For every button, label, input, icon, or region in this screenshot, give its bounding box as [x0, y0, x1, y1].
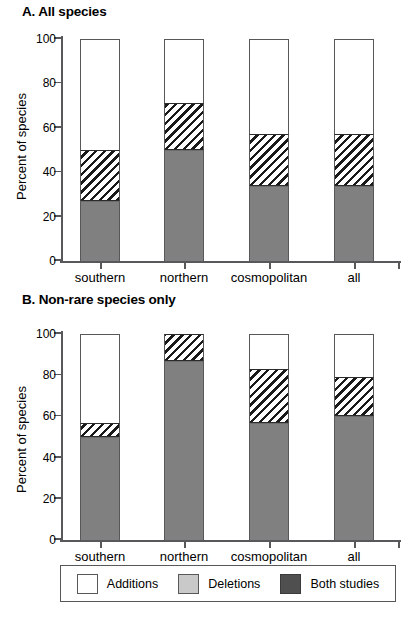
bar-northern — [164, 39, 204, 261]
x-axis-end-tick — [398, 541, 400, 548]
bar-southern — [80, 334, 120, 540]
panel-b-plot-area: 020406080100southernnortherncosmopolitan… — [61, 334, 400, 540]
bar-segment-deletions — [249, 369, 289, 423]
x-axis-tick-label-southern: southern — [75, 549, 126, 564]
panel-a-title: A. All species — [22, 4, 107, 19]
legend-item-both-studies: Both studies — [280, 574, 379, 594]
y-axis-tick-label: 100 — [36, 32, 56, 46]
bar-segment-both-studies — [334, 416, 374, 540]
x-axis-tick — [100, 262, 102, 269]
panel-b-y-axis — [61, 331, 63, 540]
bar-segment-additions — [249, 39, 289, 134]
bar-segment-additions — [334, 334, 374, 377]
legend-swatch-icon — [77, 574, 98, 594]
y-axis-tick-label: 20 — [43, 492, 56, 506]
bar-all — [334, 39, 374, 261]
x-axis-tick — [354, 541, 356, 548]
bar-segment-additions — [80, 39, 120, 150]
bar-segment-both-studies — [164, 150, 204, 261]
bar-segment-both-studies — [80, 437, 120, 540]
bar-all — [334, 334, 374, 540]
bar-segment-deletions — [249, 134, 289, 185]
bar-northern — [164, 334, 204, 540]
legend: AdditionsDeletionsBoth studies — [60, 565, 396, 602]
x-axis-tick-label-cosmopolitan: cosmopolitan — [231, 549, 308, 564]
bar-segment-deletions — [334, 134, 374, 185]
panel-a-y-axis — [61, 36, 63, 261]
panel-b-y-axis-label: Percent of species — [14, 386, 29, 493]
panel-a: A. All species Percent of species 020406… — [0, 0, 408, 288]
legend-label: Both studies — [310, 577, 379, 591]
y-axis-tick-label: 100 — [36, 327, 56, 341]
x-axis-tick — [269, 541, 271, 548]
bar-segment-additions — [80, 334, 120, 423]
x-axis-tick-label-southern: southern — [75, 270, 126, 285]
legend-swatch-icon — [280, 574, 301, 594]
y-axis-tick-label: 0 — [49, 254, 56, 268]
legend-label: Additions — [107, 577, 158, 591]
panel-a-y-axis-label: Percent of species — [14, 93, 29, 200]
bar-segment-deletions — [80, 423, 120, 437]
x-axis-tick — [184, 262, 186, 269]
bar-segment-deletions — [164, 103, 204, 150]
legend-item-additions: Additions — [77, 574, 158, 594]
x-axis-tick-label-all: all — [347, 549, 360, 564]
x-axis-tick — [269, 262, 271, 269]
bar-cosmopolitan — [249, 334, 289, 540]
x-axis-tick-label-all: all — [347, 270, 360, 285]
x-axis-tick-label-northern: northern — [160, 270, 208, 285]
bar-segment-both-studies — [249, 423, 289, 540]
bar-segment-deletions — [80, 150, 120, 201]
panel-b-x-axis — [60, 540, 401, 542]
legend-item-deletions: Deletions — [178, 574, 260, 594]
panel-a-x-axis — [60, 261, 401, 263]
bar-cosmopolitan — [249, 39, 289, 261]
bar-segment-both-studies — [334, 186, 374, 261]
x-axis-tick — [354, 262, 356, 269]
bar-segment-additions — [164, 39, 204, 103]
y-axis-tick-label: 80 — [43, 76, 56, 90]
y-axis-tick-label: 20 — [43, 210, 56, 224]
bar-segment-additions — [249, 334, 289, 369]
panel-b: B. Non-rare species only Percent of spec… — [0, 288, 408, 560]
x-axis-end-tick — [398, 262, 400, 269]
bar-southern — [80, 39, 120, 261]
y-axis-tick-label: 60 — [43, 121, 56, 135]
panel-b-title: B. Non-rare species only — [22, 292, 176, 307]
panel-a-plot-area: 020406080100southernnortherncosmopolitan… — [61, 39, 400, 261]
x-axis-tick — [184, 541, 186, 548]
y-axis-tick-label: 60 — [43, 409, 56, 423]
x-axis-tick-label-cosmopolitan: cosmopolitan — [231, 270, 308, 285]
bar-segment-deletions — [164, 334, 204, 361]
bar-segment-both-studies — [164, 361, 204, 540]
y-axis-tick-label: 40 — [43, 451, 56, 465]
y-axis-tick-label: 0 — [49, 533, 56, 547]
x-axis-tick — [100, 541, 102, 548]
y-axis-tick-label: 80 — [43, 368, 56, 382]
figure: A. All species Percent of species 020406… — [0, 0, 408, 619]
x-axis-tick-label-northern: northern — [160, 549, 208, 564]
legend-label: Deletions — [208, 577, 260, 591]
y-axis-tick-label: 40 — [43, 165, 56, 179]
bar-segment-deletions — [334, 377, 374, 416]
bar-segment-both-studies — [249, 186, 289, 261]
bar-segment-both-studies — [80, 201, 120, 261]
bar-segment-additions — [334, 39, 374, 134]
legend-swatch-icon — [178, 574, 199, 594]
